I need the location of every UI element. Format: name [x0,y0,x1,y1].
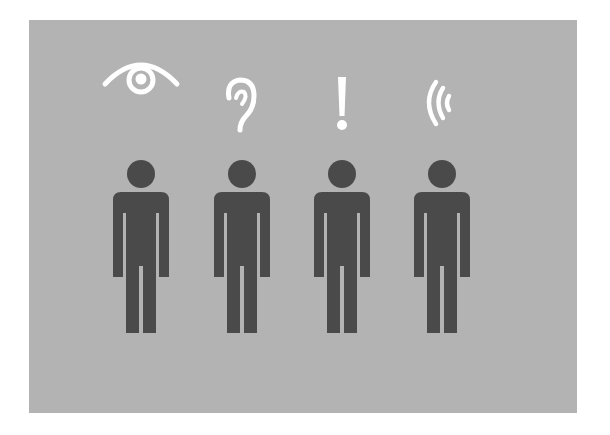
figure-person-sound [392,20,492,413]
person-icon [392,20,492,413]
figure-person-seeing [91,20,191,413]
figure-person-hearing [192,20,292,413]
person-icon [292,20,392,413]
person-icon [91,20,191,413]
figure-person-alert [292,20,392,413]
person-icon [192,20,292,413]
illustration-panel [29,20,577,413]
